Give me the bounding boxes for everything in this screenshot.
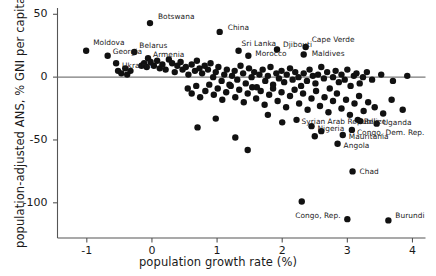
data-point [301,70,307,76]
data-point [301,51,307,57]
point-label: Moldova [93,39,124,46]
data-point [234,76,240,82]
y-axis-title: population-adjusted ANS, % GNI per capit… [13,8,27,248]
data-point [284,71,290,77]
data-point [343,97,349,103]
data-point [147,20,153,26]
data-point [224,66,230,72]
point-label: China [228,24,249,31]
data-point [83,48,89,54]
data-point [228,83,234,89]
data-point [245,53,251,59]
data-point [267,64,273,70]
data-point [378,71,384,77]
data-point [315,71,321,77]
data-point [380,110,386,116]
data-point [223,89,229,95]
data-point [199,70,205,76]
data-point [266,92,272,98]
data-point [206,81,212,87]
data-point [215,64,221,70]
data-point [400,107,406,113]
data-point [296,100,302,106]
data-point [353,70,359,76]
data-point [300,90,306,96]
data-point [249,84,255,90]
point-label: Sri Lanka [242,40,277,47]
data-point [334,90,340,96]
data-point [185,85,191,91]
data-point [369,76,375,82]
data-point [287,65,293,71]
data-point [308,95,314,101]
data-point [357,80,363,86]
data-point [298,83,304,89]
data-point [385,217,391,223]
data-point [162,66,168,72]
data-point [215,85,221,91]
point-label: Georgia [113,48,142,55]
data-point [218,78,224,84]
data-point [338,105,344,111]
data-point [219,97,225,103]
data-point [317,103,323,109]
point-label: Maldives [312,50,345,57]
data-point [360,74,366,80]
data-point [304,78,310,84]
data-point [278,68,284,74]
data-point [188,61,194,67]
data-point [295,74,301,80]
point-label: Botswana [158,13,195,20]
data-point [365,99,371,105]
data-point [289,76,295,82]
data-point [371,104,377,110]
data-point [299,198,305,204]
data-point [342,76,348,82]
data-point [194,124,200,130]
data-point [281,79,287,85]
data-point [211,92,217,98]
data-point [216,29,222,35]
point-label: Belarus [139,42,167,49]
data-point [327,85,333,91]
data-point [344,66,350,72]
point-label: Mauritania [349,133,389,140]
data-point [404,73,410,79]
data-point [243,80,249,86]
data-point [188,90,194,96]
scatter-plot-figure: 500-50-100 -101234 MoldovaGeorgiaUkraine… [0,0,436,276]
data-point [312,80,318,86]
data-point [356,93,362,99]
data-point [172,69,178,75]
data-point [253,95,259,101]
data-point [388,97,394,103]
data-point [279,119,285,125]
data-point [232,94,238,100]
data-point [231,68,237,74]
data-point [207,60,213,66]
data-point [334,141,340,147]
data-point [278,89,284,95]
data-point [246,65,252,71]
data-point [276,75,282,81]
x-axis-title: population growth rate (%) [0,255,436,269]
point-label: Uganda [383,119,412,126]
data-point [258,88,264,94]
data-point [185,71,191,77]
data-point [270,85,276,91]
data-point [240,70,246,76]
data-point [349,168,355,174]
data-point [177,59,183,65]
data-point [274,98,280,104]
point-label: Chad [360,168,379,175]
data-point [304,107,310,113]
point-label: Nigeria [318,125,345,132]
data-point [193,83,199,89]
point-label: Angola [344,142,370,149]
point-label: Armenia [153,51,184,58]
data-point [321,94,327,100]
point-label: Burundi [395,212,424,219]
data-point [265,112,271,118]
point-label: Morocco [255,50,286,57]
data-point [360,108,366,114]
